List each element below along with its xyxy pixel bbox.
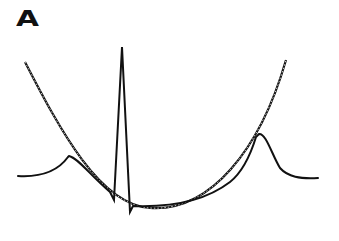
parabolic-envelope <box>25 60 286 208</box>
parabola-outer <box>25 60 286 208</box>
diagram-canvas <box>0 0 339 241</box>
